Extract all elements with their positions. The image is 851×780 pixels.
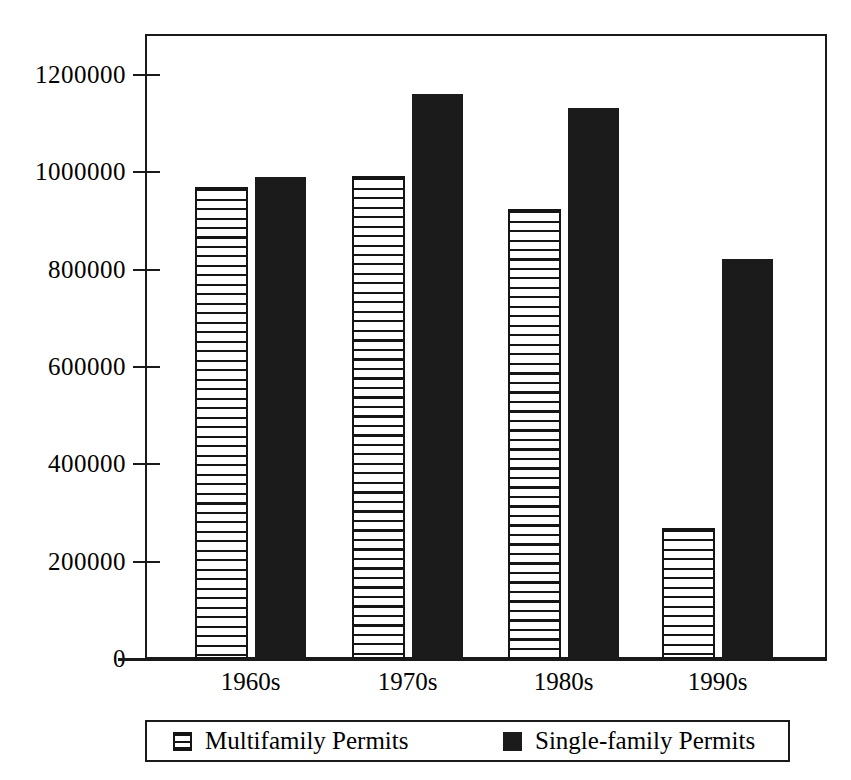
bar-single-family-1980s <box>568 108 619 659</box>
bar-multifamily-1990s <box>662 528 715 659</box>
bar-multifamily-1960s <box>195 187 248 659</box>
bar-single-family-1970s <box>412 94 463 660</box>
bar-multifamily-1970s <box>352 176 405 659</box>
bar-chart: 020000040000060000080000010000001200000 … <box>0 0 851 780</box>
solid-black-square-icon <box>503 732 522 751</box>
x-axis-tick-label-1960s: 1960s <box>191 668 311 696</box>
x-axis-tick-label-1970s: 1970s <box>348 668 468 696</box>
legend-entry-multifamily: Multifamily Permits <box>173 722 408 760</box>
bar-single-family-1960s <box>255 177 306 659</box>
legend: Multifamily Permits Single-family Permit… <box>145 720 790 762</box>
legend-label-single-family: Single-family Permits <box>535 728 755 754</box>
bar-multifamily-1980s <box>508 209 561 659</box>
striped-square-icon <box>173 732 192 751</box>
bars-layer <box>0 0 851 659</box>
bar-single-family-1990s <box>722 259 773 659</box>
legend-label-multifamily: Multifamily Permits <box>205 728 408 754</box>
x-axis-tick-label-1980s: 1980s <box>504 668 624 696</box>
x-axis-tick-label-1990s: 1990s <box>658 668 778 696</box>
legend-entry-single-family: Single-family Permits <box>503 722 755 760</box>
